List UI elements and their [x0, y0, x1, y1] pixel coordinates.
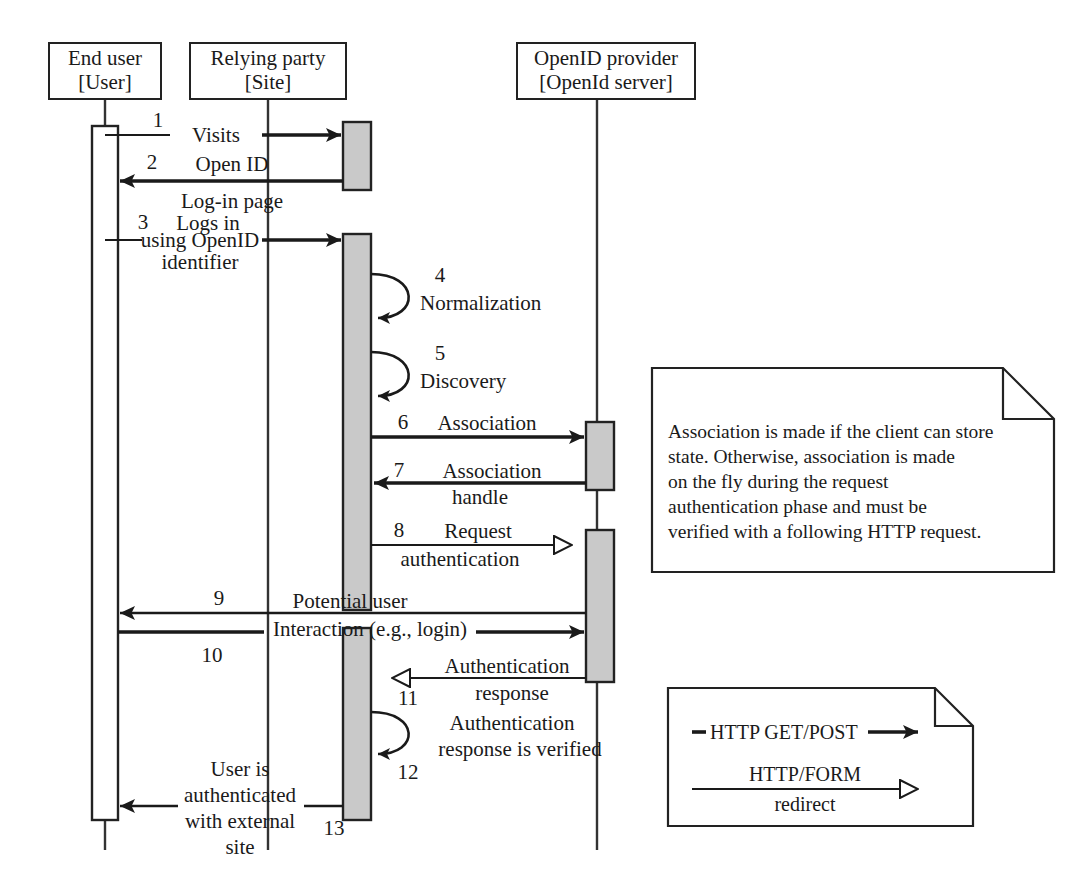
message-label-8-line1: Request: [444, 520, 512, 543]
message-label-11-line2: response: [475, 682, 548, 705]
activation-end-user: [92, 126, 118, 820]
activation-relying-party-2: [343, 234, 371, 610]
message-label-8-line2: authentication: [401, 548, 520, 571]
message-label-12-line2: response is verified: [438, 738, 601, 761]
participant-stereotype-end-user: [User]: [78, 71, 132, 95]
sequence-diagram-canvas: End user [User] Relying party [Site] Ope…: [0, 0, 1073, 896]
message-label-2-line2: Log-in page: [181, 190, 283, 213]
activation-openid-provider-1: [586, 422, 614, 490]
message-number-9: 9: [214, 588, 225, 609]
activation-openid-provider-2: [586, 530, 614, 682]
message-number-13: 13: [324, 818, 345, 839]
message-label-6: Association: [437, 412, 536, 435]
message-number-11: 11: [398, 688, 418, 709]
note-line-1: Association is made if the client can st…: [668, 420, 1048, 445]
legend-entry-1-label: HTTP GET/POST: [710, 720, 858, 744]
message-label-11-line1: Authentication: [445, 655, 570, 678]
message-label-1: Visits: [192, 124, 240, 147]
message-4-selfloop: [371, 274, 409, 318]
activation-relying-party-3: [343, 628, 371, 820]
message-number-8: 8: [394, 520, 405, 541]
message-label-7-line1: Association: [442, 460, 541, 483]
legend-entry-2-label-line1: HTTP/FORM: [749, 762, 861, 786]
participant-name-end-user: End user: [68, 47, 142, 71]
participant-box-relying-party[interactable]: Relying party [Site]: [189, 42, 347, 100]
message-label-10: Interaction (e.g., login): [273, 618, 467, 641]
participant-stereotype-openid-provider: [OpenId server]: [539, 71, 673, 95]
note-line-3: on the fly during the request: [668, 470, 1048, 495]
note-line-5: verified with a following HTTP request.: [668, 520, 1048, 545]
message-number-2: 2: [147, 152, 158, 173]
message-label-3-line3: identifier: [162, 251, 239, 274]
message-label-2-line1: Open ID: [196, 153, 269, 176]
message-5-selfloop: [371, 352, 409, 396]
message-label-13-line1: User is: [211, 758, 270, 781]
participant-name-relying-party: Relying party: [211, 47, 326, 71]
message-label-4: Normalization: [420, 292, 541, 315]
message-number-10: 10: [202, 645, 223, 666]
message-number-7: 7: [394, 460, 405, 481]
message-label-13-line2: authenticated: [184, 784, 296, 807]
participant-stereotype-relying-party: [Site]: [245, 71, 292, 95]
message-label-13-line3: with external: [185, 810, 295, 833]
message-number-1: 1: [153, 110, 164, 131]
note-line-2: state. Otherwise, association is made: [668, 445, 1048, 470]
message-label-7-line2: handle: [452, 486, 508, 509]
message-label-9: Potential user: [293, 590, 408, 613]
message-label-5: Discovery: [420, 370, 506, 393]
activation-relying-party-1: [343, 122, 371, 190]
message-label-3-line2: using OpenID: [141, 229, 259, 252]
message-number-6: 6: [398, 412, 409, 433]
participant-box-end-user[interactable]: End user [User]: [48, 42, 162, 100]
message-12-selfloop: [371, 712, 409, 754]
participant-name-openid-provider: OpenID provider: [534, 47, 678, 71]
association-note-text: Association is made if the client can st…: [668, 420, 1048, 545]
message-number-4: 4: [435, 265, 446, 286]
message-label-13-line4: site: [225, 836, 254, 859]
legend-entry-2-label-line2: redirect: [774, 792, 835, 816]
message-number-12: 12: [398, 762, 419, 783]
note-line-4: authentication phase and must be: [668, 495, 1048, 520]
message-number-5: 5: [435, 343, 446, 364]
message-label-12-line1: Authentication: [450, 712, 575, 735]
participant-box-openid-provider[interactable]: OpenID provider [OpenId server]: [516, 42, 696, 100]
